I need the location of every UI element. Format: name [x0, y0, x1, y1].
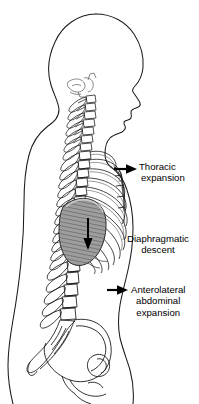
thoracic-expansion-label-line1: Thoracic	[139, 161, 185, 172]
anterolateral-label-line2: abdominal	[131, 295, 185, 306]
diaphragm	[52, 188, 112, 276]
thoracic-expansion-label-line2: expansion	[139, 172, 185, 183]
pelvis	[44, 319, 111, 404]
anterolateral-label-line3: expansion	[131, 307, 185, 318]
diaphragmatic-descent-label: Diaphragmatic descent	[127, 233, 189, 256]
lumbar-spine	[40, 260, 80, 328]
anterolateral-label-line1: Anterolateral	[131, 284, 185, 295]
diaphragmatic-descent-label-line2: descent	[127, 244, 189, 255]
anatomy-illustration	[0, 0, 199, 404]
thoracic-expansion-label: Thoracic expansion	[139, 161, 185, 184]
diaphragmatic-descent-label-line1: Diaphragmatic	[127, 233, 189, 244]
anterolateral-abdominal-expansion-label: Anterolateral abdominal expansion	[131, 284, 185, 318]
anatomical-figure: Thoracic expansion Diaphragmatic descent…	[0, 0, 199, 404]
skull-base-detail	[67, 73, 96, 97]
anterolateral-abdominal-expansion-arrow	[107, 285, 128, 295]
cervical-spine	[63, 95, 96, 160]
